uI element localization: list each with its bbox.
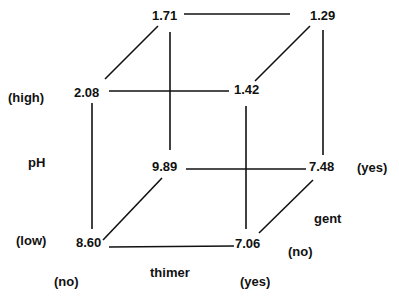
gent-axis-label: gent [314, 212, 341, 226]
cube-edges [0, 0, 399, 300]
vertex-front-bottom-right: 7.06 [235, 237, 260, 251]
ph-axis-label: pH [28, 156, 45, 170]
vertex-back-bottom-right: 7.48 [309, 160, 334, 174]
vertex-back-top-left: 1.71 [152, 9, 177, 23]
thimer-yes-label: (yes) [240, 275, 270, 289]
ph-high-label: (high) [8, 91, 44, 105]
vertex-front-top-right: 1.42 [234, 83, 259, 97]
ph-low-label: (low) [16, 234, 46, 248]
vertex-back-top-right: 1.29 [310, 9, 335, 23]
vertex-front-top-left: 2.08 [74, 86, 99, 100]
thimer-axis-label: thimer [150, 266, 190, 280]
gent-yes-label: (yes) [357, 161, 387, 175]
vertex-front-bottom-left: 8.60 [76, 236, 101, 250]
vertex-back-bottom-left: 9.89 [152, 160, 177, 174]
thimer-no-label: (no) [54, 275, 79, 289]
gent-no-label: (no) [288, 245, 313, 259]
